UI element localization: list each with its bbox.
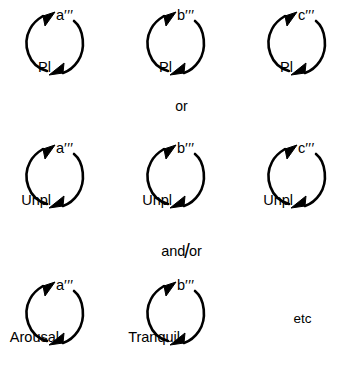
connector-or-text: or [189,243,202,259]
cycle-top-label: b′′′ [177,8,194,23]
cycle-cell: b′′′ Unpl [121,135,242,227]
diagram-row-pleasant: a′′′ Pl b′′′ Pl [0,2,363,94]
diagram-row-arousal: a′′′ Arousal b′′′ Tranquil etc [0,272,363,364]
cycle-top-label: b′′′ [177,141,194,156]
cycle-cell: c′′′ Unpl [242,135,363,227]
cycle-bottom-label: Unpl [142,193,172,208]
etc-label: etc [242,272,363,364]
cycle-top-label: c′′′ [298,141,315,156]
cycle-top-label: a′′′ [56,8,73,23]
connector-or: or [0,98,363,114]
cycle-bottom-label: Arousal [10,330,59,345]
cycle-cell: a′′′ Unpl [0,135,121,227]
cycle-bottom-label: Pl [280,60,293,75]
connector-and-text: and [161,243,185,259]
cycle-top-label: a′′′ [56,278,73,293]
cycle-cell: b′′′ Tranquil [121,272,242,364]
cycle-top-label: a′′′ [56,141,73,156]
cycle-cell: a′′′ Pl [0,2,121,94]
cycle-diagram-figure: a′′′ Pl b′′′ Pl [0,0,363,365]
cycle-bottom-label: Unpl [21,193,51,208]
connector-and-or: and/or [0,243,363,259]
cycle-bottom-label: Pl [159,60,172,75]
cycle-top-label: b′′′ [177,278,194,293]
diagram-row-unpleasant: a′′′ Unpl b′′′ Unpl [0,135,363,227]
connector-slash: / [184,240,190,262]
cycle-bottom-label: Pl [38,60,51,75]
cycle-cell: c′′′ Pl [242,2,363,94]
cycle-top-label: c′′′ [298,8,315,23]
cycle-cell: a′′′ Arousal [0,272,121,364]
cycle-bottom-label: Tranquil [128,330,180,345]
cycle-cell: b′′′ Pl [121,2,242,94]
cycle-bottom-label: Unpl [263,193,293,208]
